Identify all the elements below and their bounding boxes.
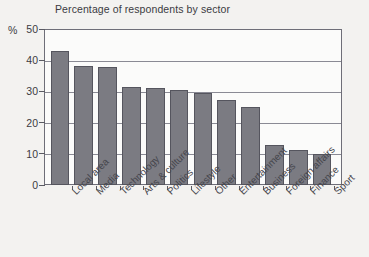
x-axis-tick-label: Arts & culture [141,189,149,197]
x-axis-tick-label: Local area [70,189,78,197]
y-axis-tick-label: 30 [26,85,38,97]
x-axis-tick-label: Foreign affairs [284,189,292,197]
y-axis-tick-label: 40 [26,54,38,66]
chart-title: Percentage of respondents by sector [55,3,230,15]
x-axis-tick-label: Lifestyle [189,189,197,197]
x-axis-tick-label: Politics [165,189,173,197]
x-axis-tick-label: Business [261,189,269,197]
x-axis-tick-label: Media [94,189,102,197]
bar-series [44,29,342,185]
bar-chart-figure: Percentage of respondents by sector % 01… [0,0,369,257]
x-axis-tick-label: Technology [118,189,126,197]
x-axis-labels: Local areaMediaTechnologyArts & cultureP… [0,189,369,257]
x-axis-tick-label: Other [213,189,221,197]
y-axis-tick-label: 20 [26,117,38,129]
y-axis-unit-label: % [8,24,17,36]
x-axis-tick-label: Entertainment [237,189,245,197]
x-axis-tick-label: Finance [308,189,316,197]
y-axis-tick-label: 10 [26,148,38,160]
x-axis-tick-label: Sport [332,189,340,197]
y-axis-tick-label: 50 [26,23,38,35]
bar [51,51,70,185]
